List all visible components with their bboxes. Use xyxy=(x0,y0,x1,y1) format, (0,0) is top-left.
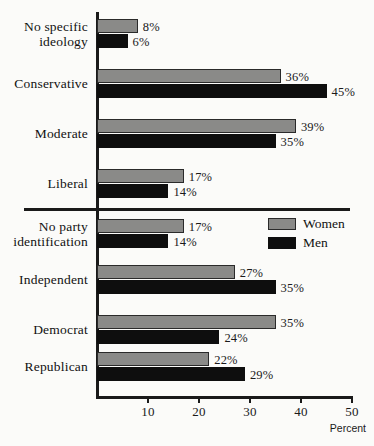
category-label-line: Independent xyxy=(0,273,88,287)
category-label-line: No party xyxy=(0,220,88,234)
x-axis-line xyxy=(96,396,353,399)
bar-value-label: 6% xyxy=(133,35,150,50)
bar-men xyxy=(97,184,168,198)
category-label: No partyidentification xyxy=(0,220,88,249)
category-label: Democrat xyxy=(0,323,88,337)
bar-women xyxy=(97,19,138,33)
bar-value-label: 35% xyxy=(281,135,305,150)
x-tick-mark xyxy=(300,396,302,403)
bar-men xyxy=(97,280,276,294)
bar-value-label: 22% xyxy=(214,353,238,368)
bar-women xyxy=(97,69,281,83)
bar-value-label: 17% xyxy=(189,220,213,235)
bar-value-label: 35% xyxy=(281,281,305,296)
legend-swatch-women-icon xyxy=(268,218,296,230)
legend-label-men: Men xyxy=(303,235,328,251)
bar-women xyxy=(97,169,184,183)
category-label: No specificideology xyxy=(0,20,88,49)
category-label: Liberal xyxy=(0,177,88,191)
x-axis-title: Percent xyxy=(330,422,366,434)
x-tick-label: 30 xyxy=(230,404,270,420)
x-tick-label: 20 xyxy=(179,404,219,420)
category-label-line: Democrat xyxy=(0,323,88,337)
bar-value-label: 17% xyxy=(189,170,213,185)
bar-men xyxy=(97,367,245,381)
bar-men xyxy=(97,34,128,48)
category-label-line: Moderate xyxy=(0,127,88,141)
bar-value-label: 24% xyxy=(224,331,248,346)
category-label-line: No specific xyxy=(0,20,88,34)
legend-item-men: Men xyxy=(268,235,368,252)
category-label-line: Conservative xyxy=(0,77,88,91)
category-label: Independent xyxy=(0,273,88,287)
category-label-line: identification xyxy=(0,235,88,249)
bar-value-label: 14% xyxy=(173,185,197,200)
bar-value-label: 36% xyxy=(286,70,310,85)
bar-men xyxy=(97,330,219,344)
bar-value-label: 35% xyxy=(281,316,305,331)
section-divider xyxy=(24,208,350,211)
bar-value-label: 29% xyxy=(250,368,274,383)
bar-men xyxy=(97,234,168,248)
x-tick-mark xyxy=(147,396,149,403)
category-label: Moderate xyxy=(0,127,88,141)
category-label-line: ideology xyxy=(0,35,88,49)
bar-women xyxy=(97,265,235,279)
x-tick-mark xyxy=(198,396,200,403)
bar-women xyxy=(97,119,296,133)
x-tick-label: 50 xyxy=(332,404,372,420)
bar-women xyxy=(97,219,184,233)
x-tick-label: 40 xyxy=(281,404,321,420)
x-tick-mark xyxy=(249,396,251,403)
bar-men xyxy=(97,134,276,148)
category-label-line: Liberal xyxy=(0,177,88,191)
bar-chart: 1020304050 Percent No specificideology8%… xyxy=(0,0,374,446)
bar-women xyxy=(97,352,209,366)
legend: Women Men xyxy=(268,216,368,254)
bar-value-label: 8% xyxy=(143,20,160,35)
legend-swatch-men-icon xyxy=(268,237,296,249)
bar-value-label: 14% xyxy=(173,235,197,250)
legend-label-women: Women xyxy=(303,216,345,232)
bar-women xyxy=(97,315,276,329)
bar-men xyxy=(97,84,327,98)
x-tick-label: 10 xyxy=(128,404,168,420)
bar-value-label: 27% xyxy=(240,266,264,281)
bar-value-label: 39% xyxy=(301,120,325,135)
x-tick-mark xyxy=(351,396,353,403)
category-label: Conservative xyxy=(0,77,88,91)
category-label-line: Republican xyxy=(0,360,88,374)
bar-value-label: 45% xyxy=(332,85,356,100)
legend-item-women: Women xyxy=(268,216,368,233)
category-label: Republican xyxy=(0,360,88,374)
